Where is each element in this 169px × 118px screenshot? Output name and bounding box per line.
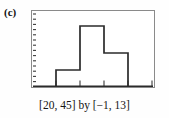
histogram-plot: [32, 11, 154, 87]
histogram-bars: [56, 26, 128, 86]
window-notation-caption: [20, 45] by [−1, 13]: [0, 99, 169, 112]
y-axis-ticks: [33, 14, 36, 82]
plot-frame: [31, 10, 155, 88]
graphing-calculator-figure: (c): [0, 0, 169, 118]
x-axis-ticks: [56, 81, 152, 87]
part-label: (c): [4, 6, 16, 18]
